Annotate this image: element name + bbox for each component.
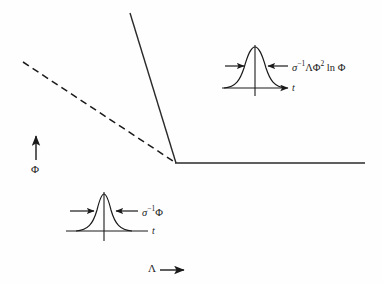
figure-vector-layer <box>0 0 383 284</box>
dashed-asymptote-line <box>23 62 176 163</box>
upper-inset-phi-exponent: 2 <box>320 59 324 68</box>
main-curve-group <box>23 13 365 163</box>
steep-descent-line <box>130 13 176 163</box>
upper-inset-lambda-phi: ΛΦ <box>305 62 320 73</box>
upper-inset-group <box>222 45 288 96</box>
lower-inset-formula: σ−1Φ <box>142 205 163 218</box>
lower-inset-t-label: t <box>152 226 155 236</box>
lower-inset-phi: Φ <box>155 207 163 218</box>
phi-axis-label: Φ <box>31 164 39 175</box>
lower-inset-group <box>66 192 148 241</box>
upper-inset-ln-phi: ln Φ <box>327 62 345 73</box>
upper-inset-sigma-exponent: −1 <box>297 59 305 68</box>
figure-canvas: Φ Λ σ−1ΛΦ2 ln Φ t σ−1Φ t <box>0 0 383 284</box>
upper-inset-formula: σ−1ΛΦ2 ln Φ <box>292 60 345 73</box>
upper-inset-t-label: t <box>292 83 295 93</box>
lower-inset-sigma-exponent: −1 <box>147 204 155 213</box>
lambda-axis-label: Λ <box>148 263 156 274</box>
